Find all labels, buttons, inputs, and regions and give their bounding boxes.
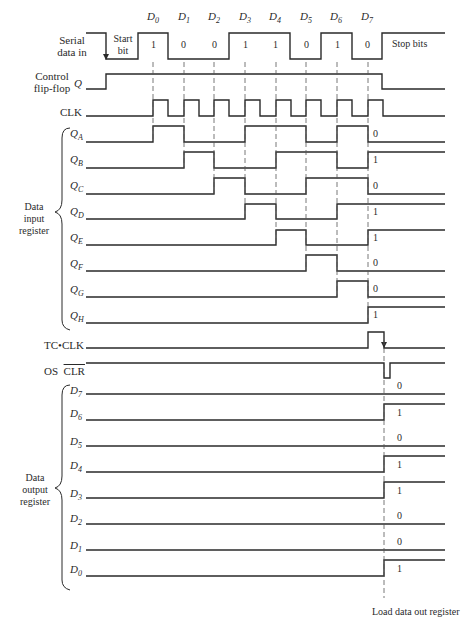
bit-label-d4: D4 xyxy=(269,10,281,27)
qh-waveform xyxy=(86,307,445,323)
d0-final: 1 xyxy=(397,564,402,574)
bit-label-d2: D2 xyxy=(208,10,220,27)
qg-label: QG xyxy=(70,283,84,300)
d4-waveform xyxy=(86,456,445,472)
qf-label: QF xyxy=(70,257,83,274)
bit-value-6: 1 xyxy=(335,40,340,50)
d3-final: 1 xyxy=(397,486,402,496)
qb-label: QB xyxy=(70,153,83,170)
clk-label: CLK xyxy=(60,106,82,118)
tc-clk-label: TC•CLK xyxy=(44,339,84,351)
d4-label: D4 xyxy=(70,459,82,476)
bit-value-1: 0 xyxy=(181,40,186,50)
bit-value-2: 0 xyxy=(212,40,217,50)
d2-final: 0 xyxy=(397,511,402,521)
input-register-label: Datainputregister xyxy=(14,201,54,237)
qa-label: QA xyxy=(70,127,83,144)
d7-label: D7 xyxy=(70,384,82,401)
bit-value-0: 1 xyxy=(151,40,156,50)
output-register-brace xyxy=(55,385,70,590)
qe-final: 1 xyxy=(373,233,378,243)
bit-label-d0: D0 xyxy=(147,10,159,27)
os-clr-label: OS CLR xyxy=(44,365,85,377)
d2-label: D2 xyxy=(70,512,82,529)
qa-waveform xyxy=(86,126,445,142)
bit-value-4: 1 xyxy=(273,40,278,50)
d5-final: 0 xyxy=(397,433,402,443)
qg-waveform xyxy=(86,281,445,297)
control-q-label: Q xyxy=(74,77,82,89)
d6-waveform xyxy=(86,404,445,420)
bit-value-7: 0 xyxy=(365,40,370,50)
output-register-label: Dataoutputregister xyxy=(14,472,56,508)
register-braces xyxy=(55,128,70,590)
d6-label: D6 xyxy=(70,407,82,424)
d7-final: 0 xyxy=(397,381,402,391)
stop-bits-label: Stop bits xyxy=(392,38,427,50)
qg-final: 0 xyxy=(373,284,378,294)
qc-final: 0 xyxy=(373,181,378,191)
qh-label: QH xyxy=(70,309,84,326)
qd-final: 1 xyxy=(373,207,378,217)
control-flip-flop-label: Controlflip-flop xyxy=(30,70,74,94)
d5-label: D5 xyxy=(70,435,82,452)
d1-final: 0 xyxy=(397,537,402,547)
bit-label-d6: D6 xyxy=(330,10,342,27)
d0-waveform xyxy=(86,560,445,576)
qe-label: QE xyxy=(70,231,83,248)
load-data-out-register-label: Load data out register xyxy=(372,606,459,618)
qc-waveform xyxy=(86,178,445,194)
qc-label: QC xyxy=(70,179,83,196)
d4-final: 1 xyxy=(397,460,402,470)
qd-waveform xyxy=(86,204,445,219)
tc-clk-waveform xyxy=(86,332,445,348)
bit-label-d1: D1 xyxy=(178,10,190,27)
bit-value-5: 0 xyxy=(304,40,309,50)
d0-label: D0 xyxy=(70,563,82,580)
start-bit-label: Startbit xyxy=(108,33,138,57)
bit-label-d7: D7 xyxy=(361,10,373,27)
qf-waveform xyxy=(86,255,445,271)
clk-waveform xyxy=(86,100,445,116)
input-register-brace xyxy=(55,128,70,330)
d6-final: 1 xyxy=(397,408,402,418)
qd-label: QD xyxy=(70,205,84,222)
d1-label: D1 xyxy=(70,539,82,556)
d3-label: D3 xyxy=(70,487,82,504)
qf-final: 0 xyxy=(373,258,378,268)
control-q-waveform xyxy=(86,74,445,89)
d3-waveform xyxy=(86,482,445,498)
bit-label-d3: D3 xyxy=(239,10,251,27)
qb-final: 1 xyxy=(373,155,378,165)
qe-waveform xyxy=(86,230,445,245)
bit-label-d5: D5 xyxy=(300,10,312,27)
qa-final: 0 xyxy=(373,129,378,139)
bit-value-3: 1 xyxy=(243,40,248,50)
serial-data-in-label: Serialdata in xyxy=(52,34,92,58)
qh-final: 1 xyxy=(373,310,378,320)
qb-waveform xyxy=(86,152,445,168)
os-clr-waveform xyxy=(86,363,445,378)
